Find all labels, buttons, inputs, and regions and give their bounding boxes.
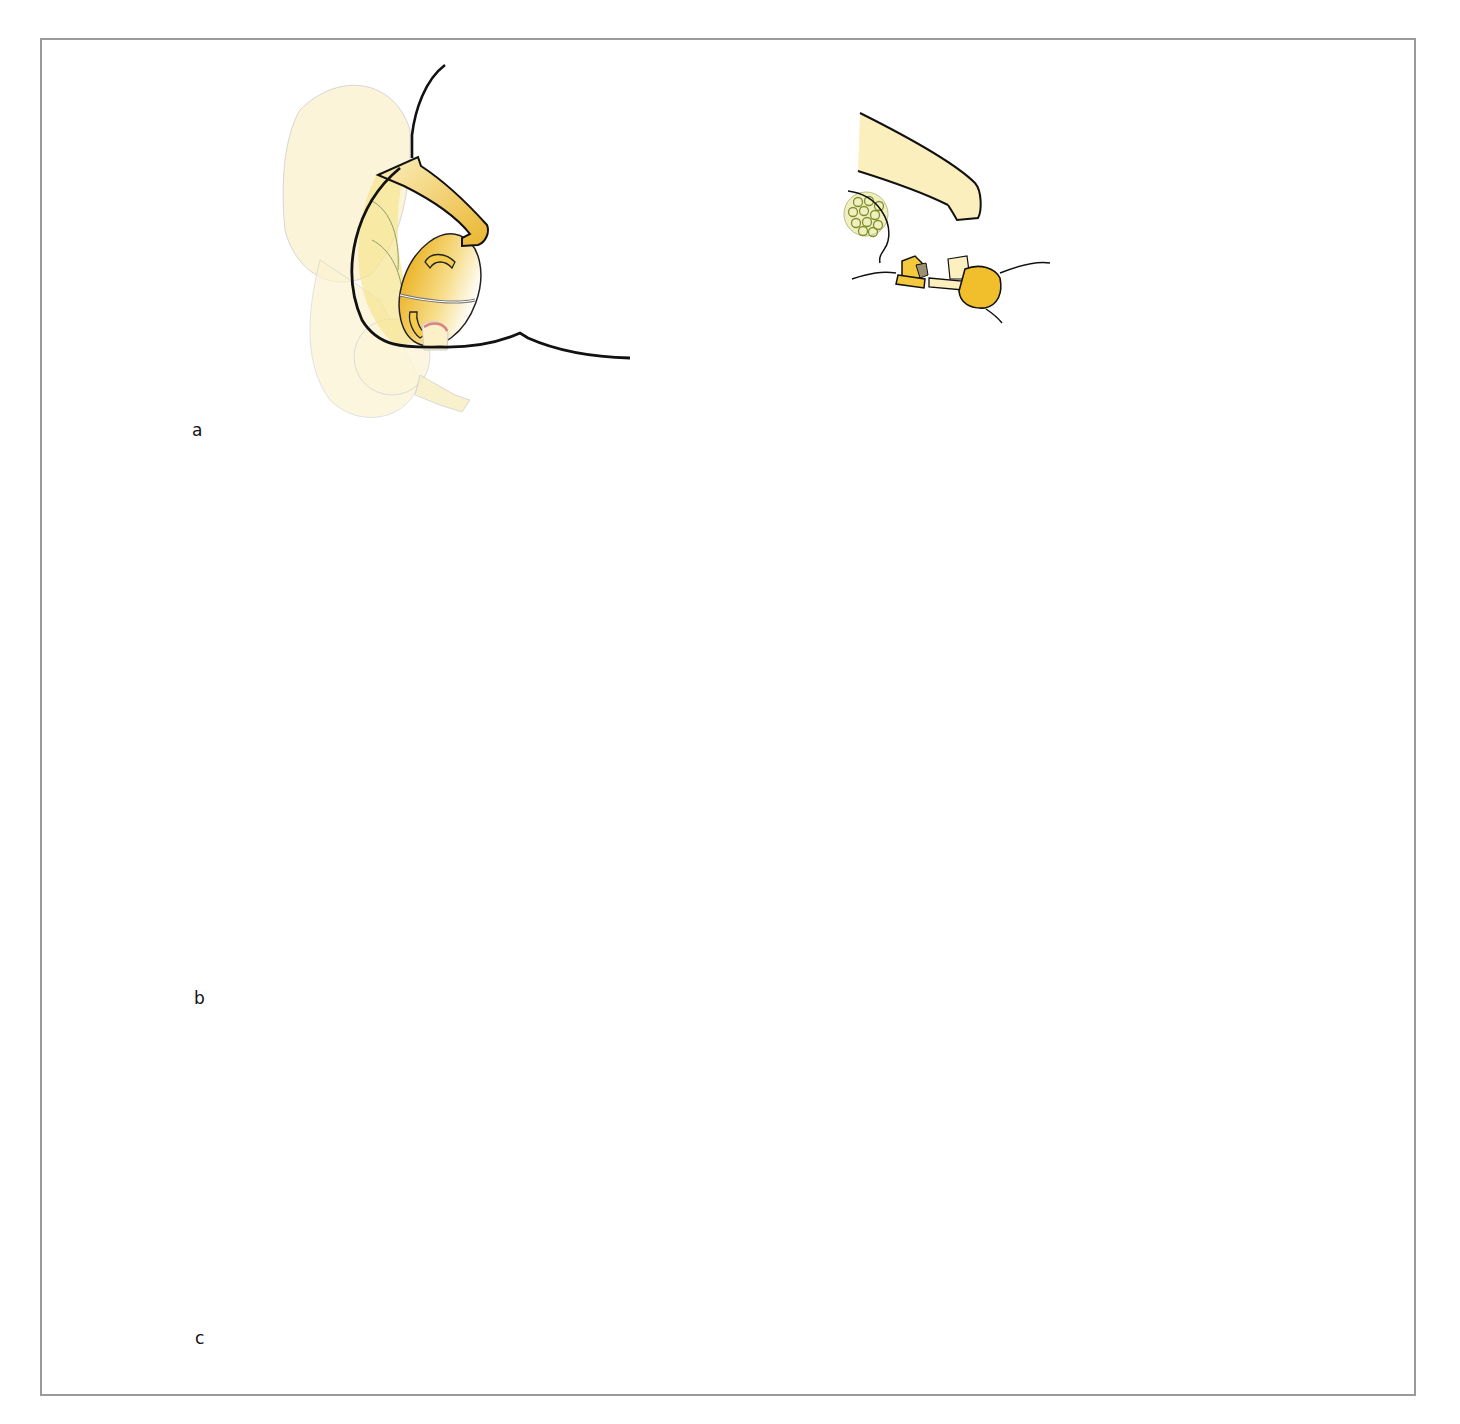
figure-illustration [0, 0, 1460, 1424]
panel-label-b: b [194, 988, 205, 1008]
panel-label-c: c [195, 1328, 204, 1348]
panel-label-a: a [192, 420, 202, 440]
panel-a-detail [844, 113, 1050, 323]
panel-a-overview [283, 65, 630, 417]
